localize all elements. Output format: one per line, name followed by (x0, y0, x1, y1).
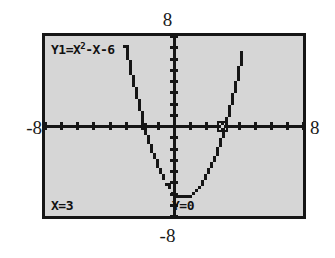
graph-plot-area (45, 36, 303, 216)
window-ymax-label: 8 (0, 10, 335, 29)
equation-prefix: Y1=X (51, 42, 80, 57)
calculator-figure: 8 -8 8 -8 Y1=X2-X-6 X=3 Y=0 (0, 0, 335, 258)
calculator-screen[interactable]: Y1=X2-X-6 X=3 Y=0 (42, 33, 306, 219)
window-xmin-label: -8 (2, 118, 42, 137)
equation-suffix: -X-6 (85, 42, 114, 57)
window-ymin-label: -8 (0, 226, 335, 245)
trace-y-readout: Y=0 (172, 199, 194, 212)
window-xmax-label: 8 (310, 118, 334, 137)
trace-x-readout: X=3 (51, 199, 73, 212)
equation-label: Y1=X2-X-6 (51, 42, 115, 56)
